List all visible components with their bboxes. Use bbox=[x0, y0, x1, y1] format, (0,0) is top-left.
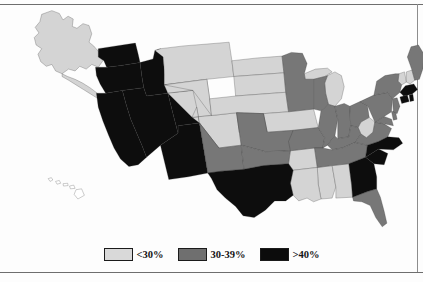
legend-swatch-high-icon bbox=[260, 248, 289, 261]
state-AR[interactable] bbox=[289, 148, 318, 170]
page-rule-top bbox=[0, 4, 423, 5]
state-NE[interactable] bbox=[210, 92, 289, 115]
legend-label-high: >40% bbox=[293, 249, 320, 260]
figure-container: <30% 30-39% >40% bbox=[0, 0, 423, 282]
legend-item-low[interactable]: <30% bbox=[104, 248, 164, 261]
state-MA[interactable] bbox=[400, 84, 418, 96]
state-MT[interactable] bbox=[155, 42, 234, 85]
page-rule-bottom bbox=[0, 272, 423, 273]
state-NJ[interactable] bbox=[392, 98, 399, 114]
state-group-hawaii[interactable] bbox=[48, 178, 84, 199]
state-HI-oahu bbox=[56, 180, 61, 184]
state-CT[interactable] bbox=[400, 95, 409, 103]
state-AK-aleutian-tail bbox=[62, 74, 102, 99]
state-HI-bigisland bbox=[74, 189, 84, 199]
legend-label-low: <30% bbox=[137, 249, 164, 260]
map-legend: <30% 30-39% >40% bbox=[0, 243, 423, 265]
state-AK[interactable] bbox=[34, 11, 103, 74]
state-HI-maui bbox=[70, 185, 76, 189]
legend-label-mid: 30-39% bbox=[211, 249, 246, 260]
state-SD[interactable] bbox=[234, 73, 286, 96]
legend-swatch-mid-icon bbox=[178, 248, 207, 261]
state-TX[interactable] bbox=[208, 164, 293, 218]
state-RI[interactable] bbox=[409, 94, 414, 101]
legend-swatch-low-icon bbox=[104, 248, 133, 261]
state-group-alaska bbox=[34, 11, 103, 99]
state-HI-molokai bbox=[63, 183, 68, 186]
state-MO[interactable] bbox=[289, 128, 325, 151]
us-choropleth-map bbox=[0, 6, 423, 238]
legend-item-high[interactable]: >40% bbox=[260, 248, 320, 261]
us-map-svg bbox=[0, 6, 423, 238]
state-HI-kauai bbox=[48, 178, 53, 182]
state-LA[interactable] bbox=[290, 167, 321, 201]
legend-item-mid[interactable]: 30-39% bbox=[178, 248, 246, 261]
